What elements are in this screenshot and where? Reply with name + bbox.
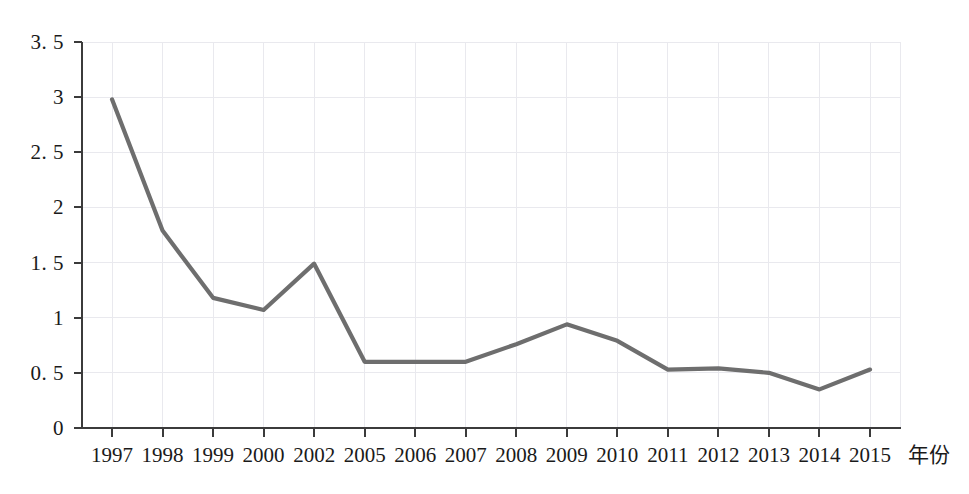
x-tick-label: 2011 — [647, 443, 688, 467]
x-tick-marks — [112, 428, 870, 437]
y-tick-marks — [74, 42, 82, 428]
x-tick-label: 1999 — [192, 443, 234, 467]
x-tick-label: 1997 — [91, 443, 133, 467]
x-tick-label: 2013 — [748, 443, 790, 467]
x-tick-label: 2014 — [798, 443, 841, 467]
y-tick-label: 1 — [53, 306, 64, 330]
y-tick-labels: 00. 511. 522. 533. 5 — [31, 30, 65, 440]
x-tick-label: 2009 — [546, 443, 588, 467]
x-tick-label: 2005 — [344, 443, 386, 467]
x-tick-label: 2015 — [849, 443, 891, 467]
line-chart: 00. 511. 522. 533. 5 1997199819992000200… — [0, 0, 969, 494]
x-axis-title: 年份 — [908, 443, 950, 467]
y-tick-label: 3 — [53, 85, 64, 109]
y-tick-label: 3. 5 — [31, 30, 65, 54]
x-tick-label: 2008 — [495, 443, 537, 467]
y-tick-label: 1. 5 — [31, 251, 65, 275]
chart-canvas: 00. 511. 522. 533. 5 1997199819992000200… — [0, 0, 969, 494]
x-tick-label: 2006 — [394, 443, 436, 467]
x-tick-label: 2002 — [293, 443, 335, 467]
vertical-gridlines — [112, 42, 900, 428]
x-tick-labels: 1997199819992000200220052006200720082009… — [91, 443, 891, 467]
y-tick-label: 0 — [53, 416, 64, 440]
x-tick-label: 1998 — [142, 443, 184, 467]
data-series-line — [112, 99, 870, 389]
x-tick-label: 2000 — [243, 443, 285, 467]
y-tick-label: 2. 5 — [31, 140, 65, 164]
x-tick-label: 2007 — [445, 443, 487, 467]
x-tick-label: 2012 — [697, 443, 739, 467]
horizontal-gridlines — [82, 42, 900, 428]
y-tick-label: 2 — [53, 195, 64, 219]
x-tick-label: 2010 — [596, 443, 638, 467]
y-tick-label: 0. 5 — [31, 361, 65, 385]
